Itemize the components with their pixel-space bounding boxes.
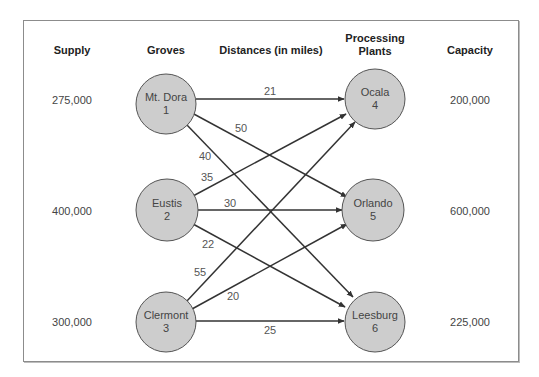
capacity-leesburg: 225,000 [450, 316, 490, 328]
node-clermont-id: 3 [163, 322, 169, 334]
edge-label-mtdora-ocala: 21 [264, 85, 276, 97]
header-distances: Distances (in miles) [219, 44, 323, 56]
edge-label-eustis-ocala: 35 [201, 171, 213, 183]
node-ocala: Ocala 4 [345, 69, 405, 129]
capacity-ocala: 200,000 [450, 94, 490, 106]
node-eustis-id: 2 [164, 210, 170, 222]
node-eustis: Eustis 2 [136, 179, 198, 241]
node-clermont-name: Clermont [144, 309, 189, 321]
node-clermont: Clermont 3 [136, 292, 196, 352]
node-mt-dora-id: 1 [163, 104, 169, 116]
edge-clermont-ocala [186, 122, 355, 302]
supply-eustis: 400,000 [52, 205, 92, 217]
header-plants: Plants [358, 45, 391, 57]
header-processing: Processing [345, 32, 404, 44]
node-orlando-id: 5 [370, 210, 376, 222]
node-mt-dora: Mt. Dora 1 [136, 74, 196, 134]
header-capacity: Capacity [447, 44, 494, 56]
node-leesburg-name: Leesburg [352, 309, 398, 321]
node-orlando-name: Orlando [353, 197, 392, 209]
capacity-orlando: 600,000 [450, 205, 490, 217]
node-leesburg-id: 6 [372, 322, 378, 334]
supply-clermont: 300,000 [52, 316, 92, 328]
edge-label-mtdora-orlando: 50 [235, 122, 247, 134]
edge-label-clermont-leesburg: 25 [264, 324, 276, 336]
supply-mt-dora: 275,000 [52, 94, 92, 106]
header-groves: Groves [147, 44, 185, 56]
node-ocala-name: Ocala [361, 86, 391, 98]
edge-label-clermont-orlando: 20 [227, 290, 239, 302]
edge-label-eustis-orlando: 30 [224, 197, 236, 209]
node-leesburg: Leesburg 6 [345, 292, 405, 352]
node-orlando: Orlando 5 [342, 179, 404, 241]
transportation-network-diagram: Supply Groves Distances (in miles) Proce… [0, 0, 539, 377]
edge-label-clermont-ocala: 55 [194, 266, 206, 278]
header-supply: Supply [54, 44, 92, 56]
edge-label-eustis-leesburg: 22 [202, 238, 214, 250]
node-ocala-id: 4 [372, 99, 378, 111]
node-mt-dora-name: Mt. Dora [145, 91, 188, 103]
node-eustis-name: Eustis [152, 197, 182, 209]
edge-label-mtdora-leesburg: 40 [199, 150, 211, 162]
